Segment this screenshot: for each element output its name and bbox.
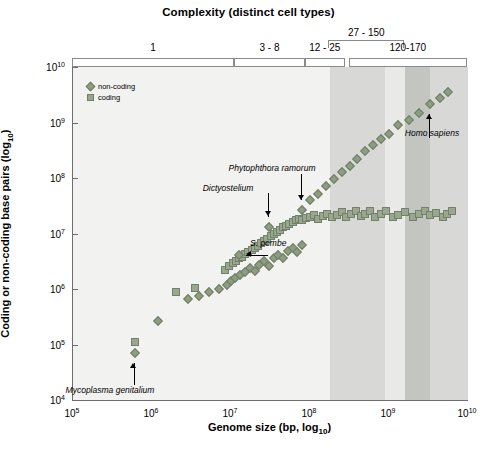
x-axis-tick-label: 105 [64,407,79,419]
y-axis-tick-label: 109 [0,116,65,128]
data-point-coding [131,338,139,346]
x-axis-tick [73,400,74,401]
annotation-label: Phytophthora ramorum [229,163,316,173]
shaded-region [73,67,330,400]
y-axis-tick [73,345,78,346]
x-axis-tick-label: 107 [222,407,237,419]
y-axis-tick [73,178,78,179]
y-axis-tick [73,289,78,290]
arrow-head-icon [130,363,136,368]
legend-item-coding: coding [87,92,135,103]
arrow-head-icon [246,251,251,257]
annotation-label: Mycoplasma genitalium [66,385,155,395]
x-axis-title: Genome size (bp, log10) [72,421,467,436]
annotation-label: Dictyostelium [203,183,254,193]
complexity-segment [305,58,345,67]
arrow-head-icon [265,211,271,216]
x-axis-tick-label: 109 [380,407,395,419]
y-axis-tick-label: 108 [0,172,65,184]
x-axis-tick-label: 108 [301,407,316,419]
y-axis-tick-label: 1010 [0,61,65,73]
shaded-region [330,67,385,400]
complexity-band-label: 12 - 25 [305,42,345,53]
arrow-head-icon [426,114,432,119]
complexity-band-label: 1 [72,42,234,53]
x-axis-tick [310,400,311,401]
complexity-band-label: 3 - 8 [234,42,305,53]
annotation-label: Homo sapiens [405,128,459,138]
y-axis-tick [73,234,78,235]
x-axis-tick [152,400,153,401]
data-point-coding [401,208,409,216]
legend: non-coding coding [87,81,135,103]
diamond-marker-icon [86,82,96,92]
shaded-region [430,67,468,400]
data-point-coding [172,288,180,296]
complexity-segment [72,58,234,67]
complexity-band-bar [72,58,467,67]
chart-title: Complexity (distinct cell types) [0,6,497,18]
x-axis-tick-label: 106 [143,407,158,419]
x-axis-tick [231,400,232,401]
complexity-segment [349,58,468,67]
x-axis-tick-label: 1010 [458,407,477,419]
x-axis-tick [389,400,390,401]
square-marker-icon [87,94,94,101]
y-axis-tick [73,123,78,124]
plot-area: non-coding coding [72,67,468,401]
annotation-label: S. pombe [250,238,286,248]
y-axis-tick-label: 106 [0,283,65,295]
legend-label-non-coding: non-coding [98,81,135,92]
complexity-segment [234,58,305,67]
y-axis-tick [73,400,78,401]
figure: Complexity (distinct cell types) Coding … [0,0,497,453]
arrow-head-icon [298,195,304,200]
data-point-coding [448,207,456,215]
legend-label-coding: coding [98,92,120,103]
complexity-band-label: 27 - 150 [329,27,404,38]
complexity-band-label: 120-170 [349,42,468,53]
shaded-region [385,67,405,400]
y-axis-tick-label: 105 [0,338,65,350]
y-axis-tick-label: 104 [0,394,65,406]
legend-item-non-coding: non-coding [87,81,135,92]
y-axis-tick [73,67,78,68]
y-axis-tick-label: 107 [0,227,65,239]
